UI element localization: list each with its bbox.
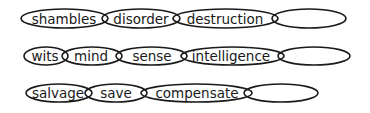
link-ellipse: [278, 47, 350, 65]
link-word: salvage: [32, 85, 84, 101]
word-chain-canvas: shambles disorder destruction wits: [0, 0, 370, 113]
link-word: mind: [74, 48, 108, 64]
link-word: sense: [132, 48, 171, 64]
chain-link-empty: [244, 84, 318, 102]
link-word: destruction: [187, 11, 264, 27]
chain-link-salvage: salvage: [26, 84, 92, 102]
chain-link-destruction: destruction: [173, 9, 278, 28]
chain-link-intelligence: intelligence: [181, 47, 284, 65]
link-ellipse: [272, 9, 346, 28]
chain-row-2: wits mind sense intelligence: [24, 47, 350, 65]
chain-link-shambles: shambles: [21, 9, 108, 28]
chain-link-save: save: [85, 84, 147, 102]
chain-link-sense: sense: [116, 47, 187, 65]
link-word: disorder: [113, 11, 169, 27]
chain-link-compensate: compensate: [141, 84, 252, 102]
chain-link-empty: [278, 47, 350, 65]
link-word: compensate: [155, 85, 238, 101]
chain-row-1: shambles disorder destruction: [21, 9, 346, 28]
chain-link-empty: [272, 9, 346, 28]
link-word: intelligence: [192, 48, 270, 64]
chain-row-3: salvage save compensate: [26, 84, 318, 102]
chain-link-disorder: disorder: [102, 9, 180, 28]
link-ellipse: [244, 84, 318, 102]
link-word: wits: [31, 48, 58, 64]
link-word: shambles: [32, 11, 97, 27]
chain-link-mind: mind: [62, 47, 122, 65]
word-chain-diagram: shambles disorder destruction wits: [0, 0, 370, 113]
link-word: save: [100, 85, 132, 101]
